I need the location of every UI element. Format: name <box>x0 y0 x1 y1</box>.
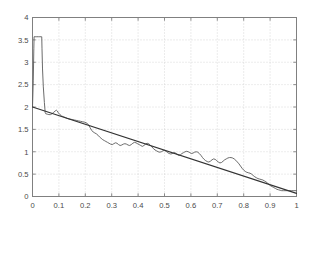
x-tick-label: 0.4 <box>133 201 144 210</box>
y-tick-label: 0.5 <box>18 170 29 179</box>
x-tick-label: 1 <box>294 201 298 210</box>
x-tick-label: 0.9 <box>265 201 276 210</box>
y-tick-label: 1.5 <box>18 125 29 134</box>
x-tick-label: 0.2 <box>80 201 91 210</box>
line-chart: 00.10.20.30.40.50.60.70.80.91 00.511.522… <box>0 0 313 259</box>
x-tick-label: 0.5 <box>159 201 170 210</box>
x-tick-label: 0.1 <box>54 201 65 210</box>
x-tick-label: 0.7 <box>212 201 223 210</box>
x-tick-label: 0.3 <box>106 201 117 210</box>
y-axis-tick-labels: 00.511.522.533.54 <box>18 13 29 201</box>
y-tick-label: 3.5 <box>18 36 29 45</box>
y-tick-label: 4 <box>24 13 28 22</box>
y-tick-label: 1 <box>24 148 28 157</box>
y-tick-label: 2.5 <box>18 80 29 89</box>
chart-figure: 00.10.20.30.40.50.60.70.80.91 00.511.522… <box>0 0 313 259</box>
x-tick-label: 0.8 <box>238 201 249 210</box>
x-tick-label: 0.6 <box>186 201 197 210</box>
x-axis-tick-labels: 00.10.20.30.40.50.60.70.80.91 <box>30 201 298 210</box>
y-tick-label: 3 <box>24 58 28 67</box>
y-tick-label: 0 <box>24 192 28 201</box>
y-tick-label: 2 <box>24 103 28 112</box>
x-tick-label: 0 <box>30 201 34 210</box>
